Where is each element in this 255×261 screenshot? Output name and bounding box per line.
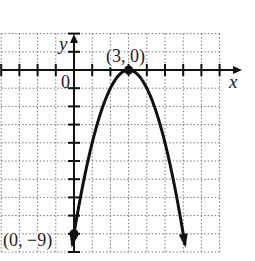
vertex-label: (3, 0) (106, 46, 145, 67)
intercept-label: (0, −9) (3, 230, 52, 251)
x-axis-label: x (228, 71, 238, 92)
origin-label: 0 (61, 72, 70, 92)
y-axis-label: y (57, 33, 68, 54)
parabola-chart: y x 0 (3, 0) (0, −9) (0, 0, 255, 261)
